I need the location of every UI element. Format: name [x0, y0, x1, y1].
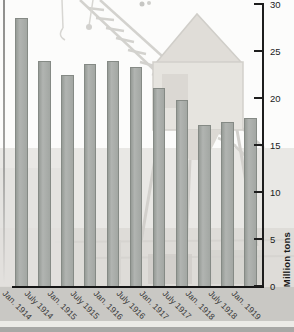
plot-area: Jan. 1914July 1914Jan. 1915July 1915Jan.… [0, 0, 294, 332]
y-tick-label: 30 [270, 0, 281, 10]
bar [244, 118, 257, 286]
bar-chart-figure: Jan. 1914July 1914Jan. 1915July 1915Jan.… [0, 0, 294, 332]
y-axis-line [262, 3, 264, 287]
bar [84, 64, 97, 286]
bar [221, 122, 234, 286]
bar [130, 67, 143, 286]
bar [15, 18, 28, 286]
y-tick-label: 25 [270, 46, 281, 57]
x-axis-baseline [12, 286, 264, 288]
y-tick-label: 5 [270, 234, 275, 245]
bar [38, 61, 51, 286]
y-tick-mark [254, 238, 262, 240]
y-tick-mark [254, 191, 262, 193]
y-tick-mark [254, 144, 262, 146]
y-axis-title: Million tons [281, 232, 292, 287]
y-tick-label: 20 [270, 93, 281, 104]
bar [153, 88, 166, 286]
y-tick-mark [254, 50, 262, 52]
bar [61, 75, 74, 286]
y-tick-label: 15 [270, 140, 281, 151]
bar [198, 125, 211, 286]
y-tick-label: 0 [270, 281, 275, 292]
y-tick-mark [254, 3, 262, 5]
y-tick-mark [254, 285, 262, 287]
y-tick-mark [254, 97, 262, 99]
bar [176, 100, 189, 286]
bar [107, 61, 120, 286]
y-tick-label: 10 [270, 187, 281, 198]
